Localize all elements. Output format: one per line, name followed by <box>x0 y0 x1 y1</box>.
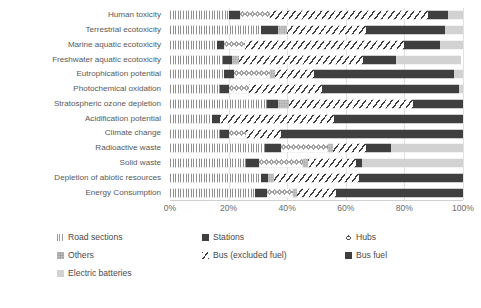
legend-item-others[interactable]: Others <box>57 250 94 260</box>
bar-segment-stations[interactable] <box>246 159 259 168</box>
bar-segment-road[interactable] <box>170 129 220 138</box>
bar-segment-others[interactable] <box>278 26 287 35</box>
bar-segment-busfuel[interactable] <box>428 11 449 20</box>
bar-segment-road[interactable] <box>170 114 212 123</box>
stacked-bar[interactable] <box>170 11 463 20</box>
bar-segment-stations[interactable] <box>261 173 268 182</box>
bar-segment-road[interactable] <box>170 173 261 182</box>
legend-item-busfuel[interactable]: Bus fuel <box>345 250 387 260</box>
legend-item-busx[interactable]: Bus (excluded fuel) <box>202 250 287 260</box>
bar-segment-busfuel[interactable] <box>334 114 463 123</box>
legend-label: Others <box>68 250 94 260</box>
stacked-bar[interactable] <box>170 173 463 182</box>
bar-segment-road[interactable] <box>170 55 223 64</box>
bar-segment-busx[interactable] <box>246 129 281 138</box>
bar-segment-hubs[interactable] <box>234 70 269 79</box>
category-label: Radioactive waste <box>0 141 166 156</box>
bar-segment-road[interactable] <box>170 11 229 20</box>
bar-segment-hubs[interactable] <box>259 159 303 168</box>
bar-segment-batt[interactable] <box>440 40 463 49</box>
bar-segment-busx[interactable] <box>270 11 428 20</box>
stacked-bar[interactable] <box>170 40 463 49</box>
bar-segment-busx[interactable] <box>249 85 322 94</box>
bar-segment-batt[interactable] <box>448 11 463 20</box>
bar-segment-stations[interactable] <box>255 188 267 197</box>
bar-segment-busx[interactable] <box>289 99 414 108</box>
bar-segment-busx[interactable] <box>245 40 405 49</box>
bar-segment-busfuel[interactable] <box>366 144 391 153</box>
category-label: Climate change <box>0 126 166 141</box>
x-tick-label: 0% <box>164 203 176 213</box>
bar-segment-hubs[interactable] <box>229 129 247 138</box>
bar-segment-batt[interactable] <box>445 26 463 35</box>
legend-item-hubs[interactable]: Hubs <box>345 232 376 242</box>
bar-segment-batt[interactable] <box>459 85 463 94</box>
x-tick-label: 80% <box>396 203 413 213</box>
bar-segment-batt[interactable] <box>396 55 462 64</box>
category-label: Human toxicity <box>0 8 166 23</box>
bar-segment-stations[interactable] <box>220 85 229 94</box>
bar-segment-busfuel[interactable] <box>336 188 463 197</box>
bar-segment-others[interactable] <box>278 99 288 108</box>
legend-label: Hubs <box>356 232 376 242</box>
bar-segment-busx[interactable] <box>274 173 359 182</box>
bar-segment-stations[interactable] <box>224 70 234 79</box>
stacked-bar[interactable] <box>170 144 463 153</box>
bar-segment-stations[interactable] <box>220 129 229 138</box>
bar-segment-road[interactable] <box>170 99 267 108</box>
bar-segment-stations[interactable] <box>229 11 241 20</box>
bar-segment-batt[interactable] <box>362 159 463 168</box>
stacked-bar[interactable] <box>170 188 463 197</box>
bar-segment-road[interactable] <box>170 85 220 94</box>
bar-segment-road[interactable] <box>170 144 265 153</box>
stacked-bar[interactable] <box>170 159 463 168</box>
bar-segment-busx[interactable] <box>220 114 334 123</box>
bar-segment-road[interactable] <box>170 40 217 49</box>
bar-segment-busx[interactable] <box>297 188 335 197</box>
legend-item-stations[interactable]: Stations <box>202 232 244 242</box>
bar-segment-busx[interactable] <box>275 70 313 79</box>
bar-segment-busx[interactable] <box>287 26 366 35</box>
bar-segment-batt[interactable] <box>391 144 463 153</box>
bar-segment-stations[interactable] <box>212 114 219 123</box>
bar-segment-busfuel[interactable] <box>363 55 395 64</box>
bar-segment-busfuel[interactable] <box>404 40 439 49</box>
bar-segment-busfuel[interactable] <box>366 26 445 35</box>
legend-item-batt[interactable]: Electric batteries <box>57 268 132 278</box>
stacked-bar[interactable] <box>170 99 463 108</box>
stacked-bar[interactable] <box>170 85 463 94</box>
bar-segment-hubs[interactable] <box>267 188 293 197</box>
legend-item-road[interactable]: Road sections <box>57 232 122 242</box>
bar-segment-busfuel[interactable] <box>359 173 463 182</box>
stacked-bar[interactable] <box>170 55 463 64</box>
bar-segment-stations[interactable] <box>217 40 224 49</box>
bar-segment-stations[interactable] <box>267 99 279 108</box>
bar-segment-hubs[interactable] <box>281 144 328 153</box>
x-axis-tick-labels: 0%20%40%60%80%100% <box>170 203 463 217</box>
stacked-bar[interactable] <box>170 70 463 79</box>
bar-segment-busfuel[interactable] <box>322 85 458 94</box>
bar-segment-busx[interactable] <box>308 159 356 168</box>
stacked-bar[interactable] <box>170 26 463 35</box>
bar-segment-hubs[interactable] <box>229 85 250 94</box>
bar-segment-stations[interactable] <box>265 144 281 153</box>
bar-segment-busfuel[interactable] <box>413 99 463 108</box>
bar-segment-busfuel[interactable] <box>314 70 455 79</box>
category-label: Eutrophication potential <box>0 67 166 82</box>
stacked-bar[interactable] <box>170 114 463 123</box>
bar-segment-road[interactable] <box>170 70 224 79</box>
bar-segment-hubs[interactable] <box>224 40 245 49</box>
stacked-bar[interactable] <box>170 129 463 138</box>
bar-segment-road[interactable] <box>170 188 255 197</box>
bar-segment-batt[interactable] <box>454 70 463 79</box>
bar-segment-stations[interactable] <box>261 26 279 35</box>
bar-segment-others[interactable] <box>232 55 239 64</box>
bar-segment-road[interactable] <box>170 26 261 35</box>
bar-row <box>170 82 463 97</box>
bar-segment-busx[interactable] <box>239 55 364 64</box>
bar-segment-stations[interactable] <box>223 55 232 64</box>
bar-segment-busx[interactable] <box>333 144 367 153</box>
bar-segment-hubs[interactable] <box>240 11 269 20</box>
bar-segment-road[interactable] <box>170 159 246 168</box>
bar-segment-busfuel[interactable] <box>281 129 463 138</box>
